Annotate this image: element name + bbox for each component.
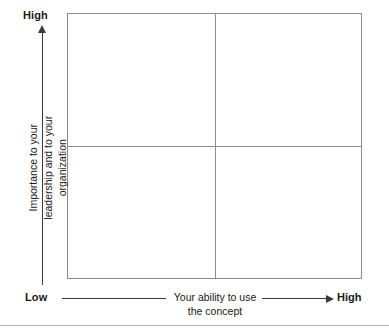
quadrant-bottom-right[interactable] xyxy=(215,146,362,278)
y-axis-low-label: Low xyxy=(25,291,47,303)
x-axis-title-line-1: Your ability to use xyxy=(160,290,270,304)
x-axis-title: Your ability to use the concept xyxy=(160,290,270,318)
x-axis-line-right xyxy=(262,298,328,299)
x-axis-title-line-2: the concept xyxy=(160,304,270,318)
arrow-right-icon xyxy=(326,295,334,303)
y-axis-title-line-2: leadership and to your xyxy=(41,73,56,263)
y-axis-title-line-3: organization xyxy=(55,73,70,263)
x-axis-high-label: High xyxy=(337,291,361,303)
y-axis-title-line-1: Importance to your xyxy=(26,73,41,263)
quadrant-matrix-plot xyxy=(67,13,362,279)
horizontal-divider-line xyxy=(68,146,361,147)
footer-divider xyxy=(0,325,389,326)
y-axis-high-label: High xyxy=(23,9,48,21)
x-axis-line-left xyxy=(62,298,166,299)
quadrant-bottom-left[interactable] xyxy=(68,146,215,278)
y-axis-title: Importance to your leadership and to you… xyxy=(26,73,70,263)
quadrant-top-right[interactable] xyxy=(215,14,362,146)
quadrant-top-left[interactable] xyxy=(68,14,215,146)
